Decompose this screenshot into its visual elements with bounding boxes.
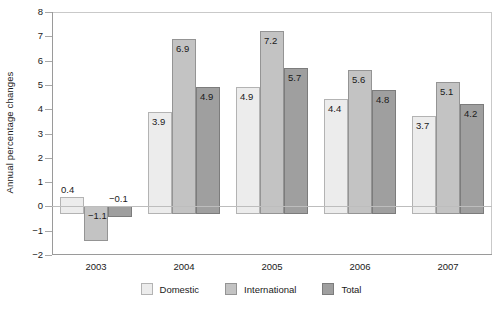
y-tick-label: 7	[1, 31, 43, 41]
bar-total-2006	[372, 90, 396, 215]
legend-swatch-icon	[322, 283, 334, 295]
x-tick-label: 2003	[52, 261, 140, 272]
legend-swatch-icon	[141, 283, 153, 295]
bar-international-2007	[436, 82, 460, 214]
x-tick-label: 2005	[228, 261, 316, 272]
bar-international-2006	[348, 70, 372, 214]
legend-label: Total	[341, 284, 361, 295]
legend-item-domestic[interactable]: Domestic	[141, 283, 200, 295]
bar-domestic-2006	[324, 99, 348, 214]
bar-value-label: 4.9	[200, 92, 213, 102]
legend-item-total[interactable]: Total	[322, 283, 361, 295]
bar-value-label: 0.4	[61, 185, 74, 195]
bar-value-label: 4.8	[376, 95, 389, 105]
bar-value-label: 7.2	[264, 36, 277, 46]
bars-layer: 0.4−1.1−0.13.96.94.94.97.25.74.45.64.83.…	[52, 12, 492, 255]
bar-value-label: 5.6	[352, 75, 365, 85]
bar-value-label: 4.2	[464, 109, 477, 119]
y-tick-label: −1	[1, 226, 43, 236]
bar-value-label: 5.7	[288, 73, 301, 83]
legend-label: International	[244, 284, 296, 295]
y-tick-label: 8	[1, 7, 43, 17]
y-tick-label: 5	[1, 80, 43, 90]
y-tick-label: 3	[1, 129, 43, 139]
bar-domestic-2005	[236, 87, 260, 214]
y-tick-label: 4	[1, 104, 43, 114]
bar-value-label: −1.1	[88, 211, 107, 221]
legend-label: Domestic	[160, 284, 200, 295]
bar-value-label: 4.9	[240, 92, 253, 102]
y-tick-mark	[45, 61, 52, 62]
y-tick-mark	[45, 134, 52, 135]
y-tick-mark	[45, 158, 52, 159]
bar-value-label: 5.1	[440, 87, 453, 97]
bar-total-2003	[108, 206, 132, 216]
x-tick-label: 2004	[140, 261, 228, 272]
y-tick-label: 0	[1, 201, 43, 211]
bar-value-label: 4.4	[328, 104, 341, 114]
y-tick-mark	[45, 36, 52, 37]
y-tick-mark	[45, 109, 52, 110]
bar-chart: Annual percentage changes 876543210−1−2 …	[0, 0, 502, 310]
y-tick-mark	[45, 12, 52, 13]
y-tick-mark	[45, 182, 52, 183]
bar-value-label: −0.1	[109, 194, 128, 204]
y-tick-label: 6	[1, 56, 43, 66]
bar-domestic-2004	[148, 112, 172, 215]
y-tick-label: 1	[1, 177, 43, 187]
bar-value-label: 3.7	[416, 121, 429, 131]
y-tick-mark	[45, 206, 52, 207]
bar-value-label: 3.9	[152, 117, 165, 127]
bar-value-label: 6.9	[176, 44, 189, 54]
chart-legend: DomesticInternationalTotal	[0, 283, 502, 295]
legend-swatch-icon	[225, 283, 237, 295]
legend-item-international[interactable]: International	[225, 283, 296, 295]
bar-international-2004	[172, 39, 196, 215]
x-tick-label: 2007	[404, 261, 492, 272]
y-tick-mark	[45, 255, 52, 256]
bar-total-2005	[284, 68, 308, 215]
x-tick-label: 2006	[316, 261, 404, 272]
bar-total-2004	[196, 87, 220, 214]
y-tick-label: 2	[1, 153, 43, 163]
bar-international-2005	[260, 31, 284, 214]
y-tick-mark	[45, 85, 52, 86]
y-tick-label: −2	[1, 250, 43, 260]
bar-total-2007	[460, 104, 484, 214]
zero-baseline	[52, 206, 492, 207]
y-tick-mark	[45, 231, 52, 232]
